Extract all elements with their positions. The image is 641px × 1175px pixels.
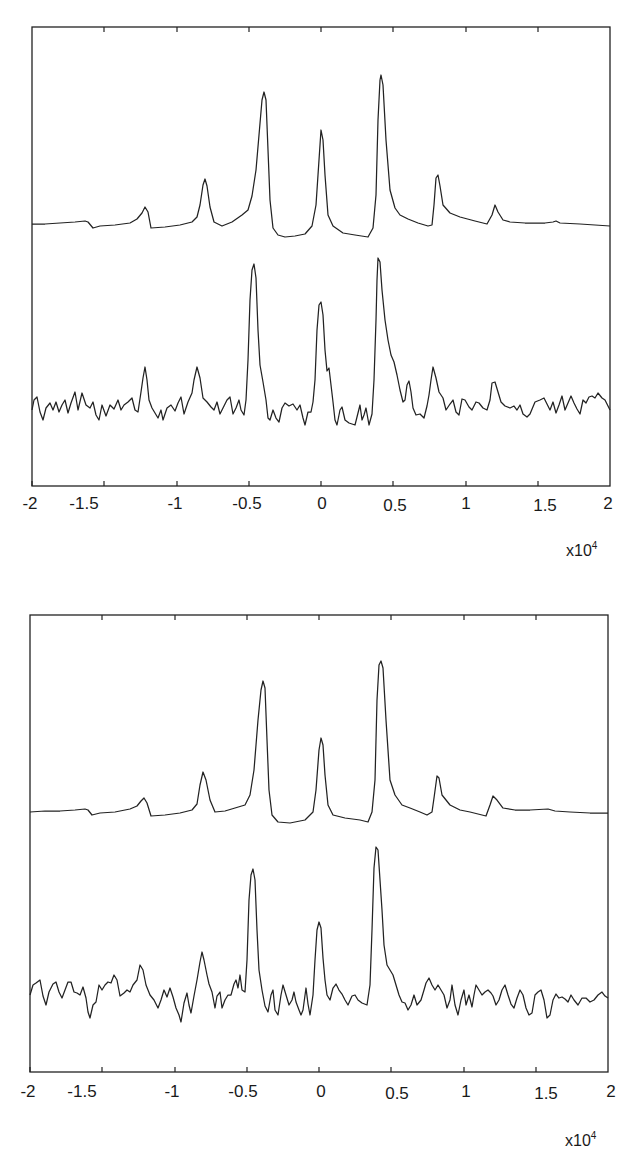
x-tick-label: 1 bbox=[461, 1082, 470, 1102]
x-tick-label: 2 bbox=[606, 1082, 615, 1102]
x-tick-label: -0.5 bbox=[228, 1082, 257, 1102]
x-tick-label: -1 bbox=[164, 1082, 179, 1102]
x-tick-label: 0 bbox=[316, 1082, 325, 1102]
x-tick-label: -2 bbox=[20, 1082, 35, 1102]
x-tick-label: -1.5 bbox=[67, 1082, 96, 1102]
chart-panel-2: -2 -1.5 -1 -0.5 0 0.5 1 1.5 2 x104 bbox=[0, 0, 641, 1175]
x-scale-multiplier: x104 bbox=[565, 1130, 596, 1150]
axes-frame bbox=[30, 615, 608, 1072]
x-tick-label: 1.5 bbox=[534, 1084, 558, 1104]
x-ticks-bottom bbox=[30, 1067, 536, 1072]
x-ticks-top bbox=[102, 615, 536, 620]
lower-trace bbox=[30, 847, 608, 1022]
upper-trace bbox=[30, 661, 608, 823]
x-tick-label: 0.5 bbox=[385, 1084, 409, 1104]
plot-area-2 bbox=[0, 0, 641, 1175]
